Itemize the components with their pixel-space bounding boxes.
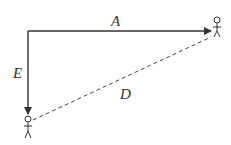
dashed-line-d bbox=[33, 37, 211, 120]
person-right-icon bbox=[213, 17, 221, 37]
label-e: E bbox=[13, 66, 22, 81]
label-a: A bbox=[111, 14, 120, 29]
person-left-icon bbox=[24, 116, 32, 138]
label-d: D bbox=[120, 87, 131, 102]
